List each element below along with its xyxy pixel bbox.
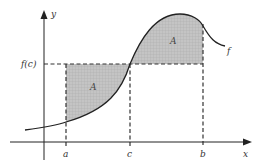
x-axis-label: x: [243, 149, 248, 159]
fc-label: f(c): [20, 59, 37, 69]
tick-label-c: c: [127, 149, 132, 159]
tick-label-b: b: [200, 149, 206, 159]
shaded-region-right: [130, 14, 203, 64]
mvt-diagram: y x f(c) f a c b A A: [0, 0, 261, 166]
tick-label-a: a: [63, 149, 68, 159]
curve-label-f: f: [226, 46, 232, 56]
region-label-right: A: [169, 36, 177, 46]
shaded-region-left: [66, 64, 130, 122]
y-axis-label: y: [50, 9, 57, 19]
y-axis-arrow-icon: [41, 10, 48, 19]
x-axis-arrow-icon: [243, 139, 252, 146]
region-label-left: A: [89, 82, 97, 92]
